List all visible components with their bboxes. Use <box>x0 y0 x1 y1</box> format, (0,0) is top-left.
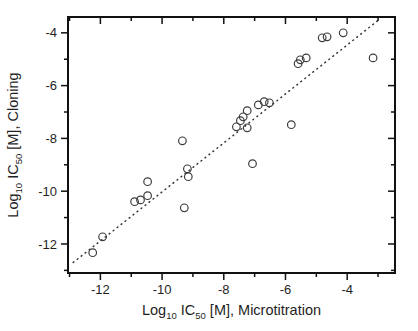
data-point-marker <box>288 121 296 129</box>
scatter-plot: -12-10-8-6-4 -12-10-8-6-4 Log10 IC50 [M]… <box>0 0 418 331</box>
y-tick-label: -8 <box>45 131 57 146</box>
scatter-figure: -12-10-8-6-4 -12-10-8-6-4 Log10 IC50 [M]… <box>0 0 418 331</box>
axis-title-text: [M], Microtitration <box>206 302 321 318</box>
data-point-marker <box>144 178 152 186</box>
fit-line-path <box>73 21 377 262</box>
axis-title-text: IC <box>177 302 196 318</box>
fit-line <box>73 21 377 262</box>
plot-frame <box>68 17 395 273</box>
axis-title-text: IC <box>5 164 21 183</box>
data-point-marker <box>323 33 331 41</box>
x-tick-label: -6 <box>280 282 292 297</box>
y-axis-tick-labels: -12-10-8-6-4 <box>38 25 57 251</box>
y-tick-label: -12 <box>38 237 57 252</box>
axis-title-subscript: 10 <box>13 183 24 194</box>
x-tick-label: -8 <box>218 282 230 297</box>
data-point-marker <box>249 160 257 168</box>
axis-title-subscript: 50 <box>195 310 206 321</box>
data-point-marker <box>339 29 347 37</box>
axis-title-text: Log <box>5 193 21 217</box>
data-point-marker <box>260 98 268 106</box>
x-axis-title: Log10 IC50 [M], Microtitration <box>142 302 321 321</box>
axis-title-subscript: 10 <box>166 310 177 321</box>
axis-ticks <box>61 17 395 280</box>
data-point-marker <box>369 54 377 62</box>
axis-title-subscript: 50 <box>13 154 24 165</box>
data-point-marker <box>243 124 251 132</box>
data-point-marker <box>266 99 274 107</box>
axis-title-text: Log <box>142 302 166 318</box>
y-tick-label: -4 <box>45 25 57 40</box>
data-point-marker <box>179 137 187 145</box>
y-tick-label: -6 <box>45 78 57 93</box>
data-point-marker <box>144 192 152 200</box>
x-axis-tick-labels: -12-10-8-6-4 <box>91 282 353 297</box>
data-point-marker <box>184 165 192 173</box>
axis-title-text: [M], Cloning <box>5 72 21 153</box>
data-point-marker <box>185 173 193 181</box>
x-tick-label: -10 <box>153 282 172 297</box>
data-point-marker <box>89 249 97 257</box>
x-tick-label: -4 <box>341 282 353 297</box>
y-axis-title: Log10 IC50 [M], Cloning <box>5 72 24 217</box>
x-tick-label: -12 <box>91 282 110 297</box>
data-points <box>89 29 377 257</box>
data-point-marker <box>243 107 251 115</box>
y-tick-label: -10 <box>38 184 57 199</box>
data-point-marker <box>181 204 189 212</box>
